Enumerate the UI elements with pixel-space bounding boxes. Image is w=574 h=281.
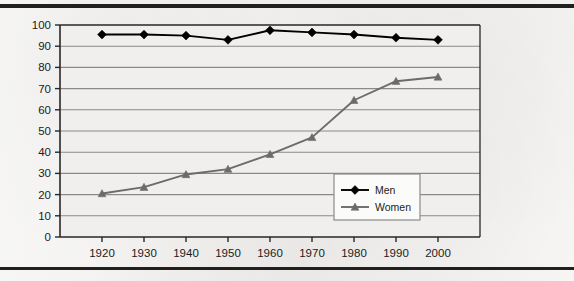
x-tick-label: 1940 xyxy=(173,247,199,259)
x-tick-label: 1950 xyxy=(215,247,241,259)
x-tick-label: 1980 xyxy=(341,247,367,259)
x-tick-label: 1970 xyxy=(299,247,325,259)
scanned-page: 0102030405060708090100 19201930194019501… xyxy=(0,0,574,281)
x-tick-label: 1990 xyxy=(383,247,409,259)
chart-legend: MenWomen xyxy=(334,174,420,220)
y-tick-label: 50 xyxy=(38,125,51,137)
x-tick-label: 1930 xyxy=(131,247,157,259)
y-tick-label: 30 xyxy=(38,167,51,179)
x-tick-label: 1960 xyxy=(257,247,283,259)
x-tick-label: 1920 xyxy=(89,247,115,259)
y-axis-tick-labels: 0102030405060708090100 xyxy=(32,19,51,243)
y-tick-label: 10 xyxy=(38,210,51,222)
y-tick-label: 0 xyxy=(45,231,51,243)
y-tick-label: 80 xyxy=(38,61,51,73)
y-tick-label: 20 xyxy=(38,189,51,201)
y-tick-label: 90 xyxy=(38,40,51,52)
y-tick-label: 100 xyxy=(32,19,51,31)
x-axis-tick-labels: 192019301940195019601970198019902000 xyxy=(89,247,451,259)
y-tick-label: 40 xyxy=(38,146,51,158)
line-chart: 0102030405060708090100 19201930194019501… xyxy=(0,0,574,281)
y-tick-label: 70 xyxy=(38,83,51,95)
legend-label-men: Men xyxy=(375,184,396,196)
legend-label-women: Women xyxy=(375,201,411,213)
legend-box xyxy=(334,174,420,220)
x-tick-label: 2000 xyxy=(425,247,451,259)
y-tick-label: 60 xyxy=(38,104,51,116)
